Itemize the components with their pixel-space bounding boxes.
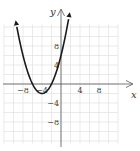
x-tick-label: 4	[77, 86, 82, 95]
parabola-curve	[14, 12, 72, 93]
y-tick-label: 8	[54, 42, 59, 51]
y-tick-label: −4	[47, 99, 59, 108]
y-tick-label: −8	[47, 118, 59, 127]
tick-labels: −8−44884−4−8	[17, 42, 101, 127]
y-axis-label: y	[49, 6, 56, 17]
parabola-graph: x y −8−44884−4−8	[0, 0, 140, 151]
x-tick-label: 8	[96, 86, 101, 95]
curve-arrow-icon	[14, 20, 19, 25]
x-axis-label: x	[131, 89, 137, 100]
curve-arrow-icon	[66, 12, 71, 17]
x-tick-label: −8	[17, 86, 29, 95]
